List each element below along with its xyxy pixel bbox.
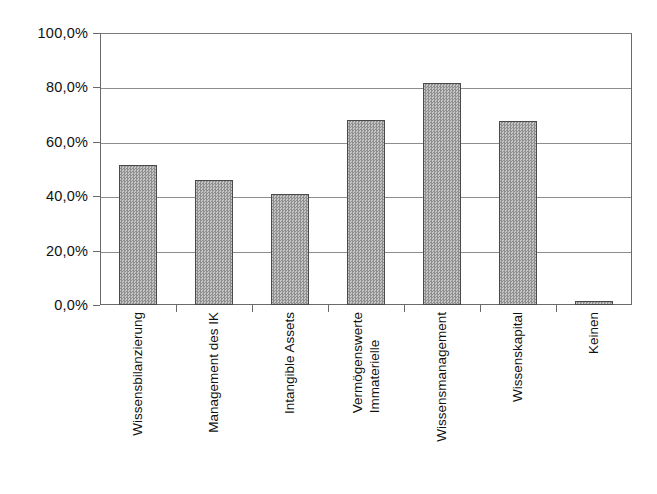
x-axis-label-slot: Wissensbilanzierung [100,312,176,492]
bar-chart-figure: 100,0% 80,0% 60,0% 40,0% 20,0% 0,0% [0,0,657,494]
x-axis-tick-mark [176,305,177,312]
x-axis-tick-mark [252,305,253,312]
x-axis-category-labels: Wissensbilanzierung Management des IK In… [100,312,632,492]
x-axis-label-slot: Wissenskapital [480,312,556,492]
x-axis-tick-mark [480,305,481,312]
x-axis-category-label: Immaterielle Vermögenswerte [349,312,383,413]
x-axis-tick-mark [404,305,405,312]
x-axis-label-slot: Management des IK [176,312,252,492]
x-axis-category-label: Wissensmanagement [434,312,450,442]
x-axis-label-slot: Keinen [556,312,632,492]
x-axis-category-label-line: Vermögenswerte [349,312,366,413]
x-axis-category-label: Wissenskapital [510,312,526,402]
x-axis-label-slot: Intangible Assets [252,312,328,492]
x-axis-category-label: Management des IK [206,312,222,433]
x-axis-category-label: Intangible Assets [282,312,298,414]
x-axis-tick-mark [328,305,329,312]
x-axis-category-label: Wissensbilanzierung [130,312,146,436]
x-axis-tick-mark [556,305,557,312]
x-axis-label-slot: Immaterielle Vermögenswerte [328,312,404,492]
x-axis-category-label: Keinen [586,312,602,354]
x-axis-category-label-line: Immaterielle [366,312,383,413]
x-axis-label-slot: Wissensmanagement [404,312,480,492]
